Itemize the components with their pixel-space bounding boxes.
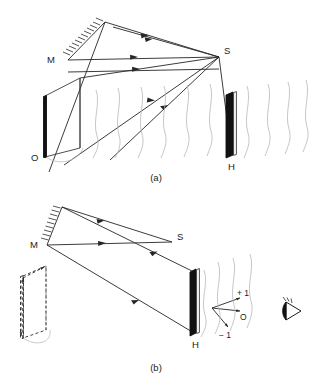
mirror-hatching-a <box>63 18 103 55</box>
object-o <box>44 78 84 162</box>
order-zero-ray <box>212 308 240 311</box>
plate-h-b <box>190 269 199 336</box>
virtual-image-b <box>21 266 51 343</box>
object-label-a: O <box>31 152 38 163</box>
plate-label-a: H <box>228 161 235 172</box>
panel-a: O H M S (a) <box>31 18 308 300</box>
diffraction-orders-b <box>212 298 240 327</box>
plate-beam-a <box>110 57 231 160</box>
wavefronts-a <box>93 80 308 158</box>
caption-a: (a) <box>150 172 162 183</box>
order-minus-one-label: − 1 <box>219 330 231 340</box>
source-label-b: S <box>177 231 183 242</box>
reference-beam-b <box>47 207 172 246</box>
figure-canvas: O H M S (a) <box>0 0 315 385</box>
panel-b: H + 1 O − 1 <box>21 206 302 373</box>
order-plus-one-label: + 1 <box>237 288 249 298</box>
plate-h-a <box>226 92 236 158</box>
mirror-b <box>41 206 62 245</box>
source-label-a: S <box>224 45 230 56</box>
mirror-label-b: M <box>30 239 38 250</box>
mirror-label-a: M <box>47 54 55 65</box>
order-zero-label: O <box>240 312 247 322</box>
caption-b: (b) <box>150 362 162 373</box>
holography-figure: O H M S (a) <box>0 0 315 385</box>
order-plus-one-ray <box>212 298 240 308</box>
object-beam-a <box>64 57 219 300</box>
plate-label-b: H <box>192 339 199 350</box>
eye-icon <box>283 297 301 320</box>
